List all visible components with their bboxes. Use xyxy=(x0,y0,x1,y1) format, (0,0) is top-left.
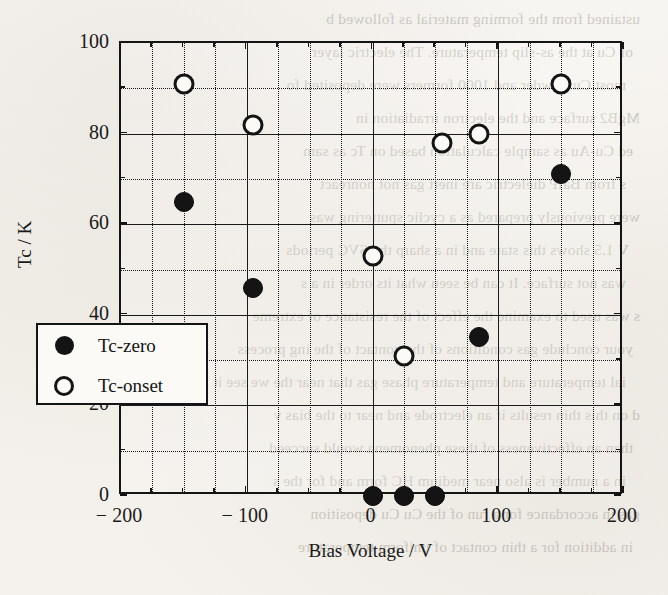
y-tick-label: 100 xyxy=(55,30,109,53)
y-tick xyxy=(120,313,127,315)
x-tick xyxy=(213,488,215,493)
x-tick-top xyxy=(559,42,561,47)
y-tick-label: 80 xyxy=(55,120,109,143)
gridline-horizontal xyxy=(121,315,620,316)
gridline-horizontal xyxy=(121,134,620,135)
data-point-tc-onset xyxy=(393,345,414,366)
y-tick-right xyxy=(614,222,621,224)
chart-legend: Tc-zero Tc-onset xyxy=(36,323,208,405)
bleed-through-line: ustained from the forming material as fo… xyxy=(326,4,640,33)
y-tick-right xyxy=(616,177,621,179)
x-tick xyxy=(559,488,561,493)
plot-area xyxy=(119,41,622,494)
x-tick-top xyxy=(339,42,341,47)
x-axis-title: Bias Voltage / V xyxy=(119,540,622,562)
data-point-tc-zero xyxy=(174,192,194,212)
y-tick-right xyxy=(616,268,621,270)
x-tick-label: − 100 xyxy=(222,504,268,527)
x-tick xyxy=(528,488,530,493)
x-tick-top xyxy=(465,42,467,47)
x-tick xyxy=(496,486,498,493)
x-tick-top xyxy=(622,42,624,49)
x-tick xyxy=(371,486,373,493)
gridline-vertical xyxy=(498,43,499,492)
legend-label-tc-zero: Tc-zero xyxy=(98,335,156,357)
x-tick-top xyxy=(119,42,121,49)
data-point-tc-zero xyxy=(243,278,263,298)
open-circle-icon xyxy=(44,376,84,396)
y-tick xyxy=(120,41,127,43)
x-tick-top xyxy=(213,42,215,47)
y-tick-right xyxy=(614,41,621,43)
x-tick-top xyxy=(496,42,498,49)
gridline-vertical xyxy=(184,43,185,492)
data-point-tc-zero xyxy=(394,486,414,506)
gridline-vertical xyxy=(593,43,594,492)
data-point-tc-zero xyxy=(469,327,489,347)
gridline-vertical xyxy=(435,43,436,492)
x-tick xyxy=(245,486,247,493)
x-tick xyxy=(465,488,467,493)
data-point-tc-onset xyxy=(243,114,264,135)
data-point-tc-zero xyxy=(551,164,571,184)
data-point-tc-zero xyxy=(363,486,383,506)
y-tick-label: 0 xyxy=(55,483,109,506)
x-tick-top xyxy=(182,42,184,47)
gridline-vertical xyxy=(530,43,531,492)
gridline-vertical xyxy=(215,43,216,492)
filled-circle-icon xyxy=(44,336,84,355)
gridline-vertical xyxy=(404,43,405,492)
y-tick-right xyxy=(614,494,621,496)
x-tick xyxy=(150,488,152,493)
gridline-horizontal xyxy=(121,88,620,89)
y-tick xyxy=(120,449,125,451)
gridline-vertical xyxy=(341,43,342,492)
x-tick xyxy=(339,488,341,493)
y-tick xyxy=(120,268,125,270)
x-tick-label: 0 xyxy=(366,504,376,527)
gridline-horizontal xyxy=(121,224,620,225)
gridline-horizontal xyxy=(121,270,620,271)
gridline-vertical xyxy=(467,43,468,492)
gridline-horizontal xyxy=(121,179,620,180)
x-tick xyxy=(276,488,278,493)
y-tick-label: 60 xyxy=(55,211,109,234)
x-tick xyxy=(402,488,404,493)
gridline-vertical xyxy=(278,43,279,492)
y-tick xyxy=(120,222,127,224)
y-tick xyxy=(120,132,127,134)
x-tick-label: 200 xyxy=(607,504,637,527)
x-tick-top xyxy=(276,42,278,47)
data-point-tc-onset xyxy=(173,73,194,94)
data-point-tc-zero xyxy=(425,486,445,506)
legend-entry-tc-zero: Tc-zero xyxy=(38,325,206,366)
x-tick-top xyxy=(308,42,310,47)
y-tick-label: 40 xyxy=(55,301,109,324)
data-point-tc-onset xyxy=(469,123,490,144)
legend-entry-tc-onset: Tc-onset xyxy=(38,365,206,406)
x-tick-top xyxy=(150,42,152,47)
x-tick xyxy=(182,488,184,493)
x-tick-top xyxy=(245,42,247,49)
data-point-tc-onset xyxy=(431,132,452,153)
x-tick xyxy=(308,488,310,493)
x-tick-label: − 200 xyxy=(96,504,142,527)
gridline-vertical xyxy=(310,43,311,492)
legend-label-tc-onset: Tc-onset xyxy=(98,375,163,397)
y-tick-right xyxy=(616,86,621,88)
data-point-tc-onset xyxy=(362,245,383,266)
y-axis-title: Tc / K xyxy=(14,221,36,268)
y-tick-right xyxy=(614,313,621,315)
x-tick-top xyxy=(528,42,530,47)
bleed-through-line: gas in accordance for a run of the Cu Cu… xyxy=(310,499,640,528)
x-tick-top xyxy=(591,42,593,47)
y-tick-right xyxy=(616,449,621,451)
x-tick xyxy=(119,486,121,493)
gridline-vertical xyxy=(561,43,562,492)
x-tick-top xyxy=(433,42,435,47)
x-tick xyxy=(622,486,624,493)
gridline-horizontal xyxy=(121,451,620,452)
y-tick xyxy=(120,86,125,88)
x-tick xyxy=(591,488,593,493)
gridline-vertical xyxy=(247,43,248,492)
